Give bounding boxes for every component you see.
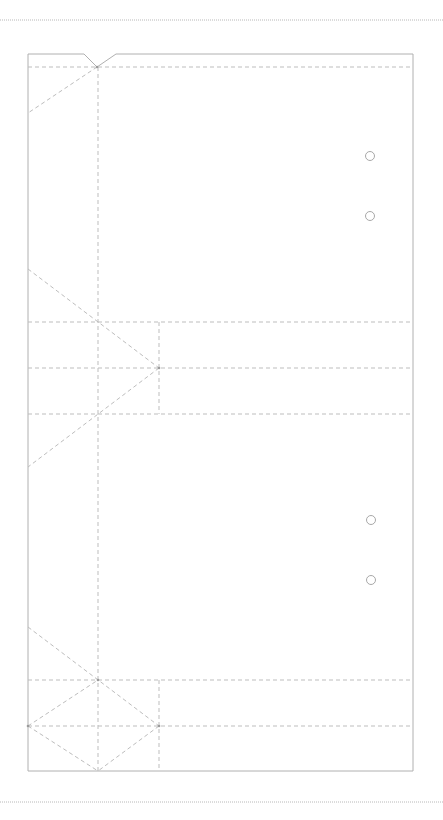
fold-mid-diagonal-b [28,368,159,467]
folding-template-diagram [0,0,443,820]
node-bottom-right [158,725,161,728]
node-bottom-spine [97,679,100,682]
punch-hole-2 [366,212,375,221]
fold-lines [28,67,413,771]
fold-bottom-diagonal-c [28,680,98,726]
template-outline [28,54,413,771]
punch-hole-4 [367,576,376,585]
node-mid-right [158,367,161,370]
page-edges [0,20,443,802]
fold-top-diagonal [28,67,97,113]
node-bottom-left [27,725,30,728]
fold-bottom-diagonal-d [28,726,98,771]
node-top-notch [96,66,99,69]
fold-nodes [27,66,161,728]
fold-bottom-diagonal-a [28,627,159,726]
fold-bottom-diagonal-b [98,726,159,771]
punch-hole-1 [366,152,375,161]
punch-hole-3 [367,516,376,525]
fold-mid-diagonal-a [28,269,159,368]
